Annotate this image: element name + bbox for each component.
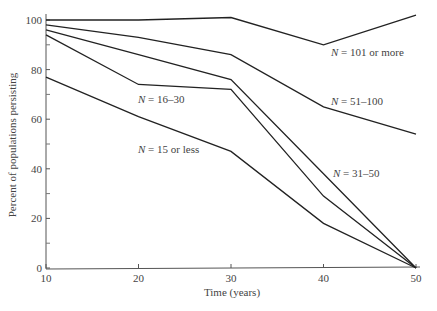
label-n-16-30: N = 16–30 bbox=[137, 93, 185, 105]
x-tick-label: 10 bbox=[41, 272, 53, 284]
line-chart: 020406080100 1020304050 Time (years) Per… bbox=[0, 0, 437, 311]
label-n-31-50: N = 31–50 bbox=[332, 167, 380, 179]
y-tick-label: 60 bbox=[31, 113, 43, 125]
x-axis bbox=[46, 267, 420, 269]
x-tick-label: 50 bbox=[411, 272, 423, 284]
series-line bbox=[46, 30, 416, 268]
x-tick-label: 30 bbox=[226, 272, 238, 284]
y-axis-title: Percent of populations persisting bbox=[6, 72, 18, 217]
y-tick-label: 20 bbox=[31, 212, 43, 224]
label-n-51-100: N = 51–100 bbox=[330, 95, 384, 107]
x-axis-title: Time (years) bbox=[204, 286, 260, 299]
label-n-101-or-more: N = 101 or more bbox=[330, 46, 404, 58]
y-tick-label: 40 bbox=[31, 163, 43, 175]
label-n-15-or-less: N = 15 or less bbox=[137, 143, 199, 155]
series-line bbox=[46, 15, 416, 45]
x-tick-label: 40 bbox=[318, 272, 330, 284]
y-tick-label: 80 bbox=[31, 64, 43, 76]
y-tick-label: 100 bbox=[26, 14, 43, 26]
x-tick-label: 20 bbox=[133, 272, 145, 284]
